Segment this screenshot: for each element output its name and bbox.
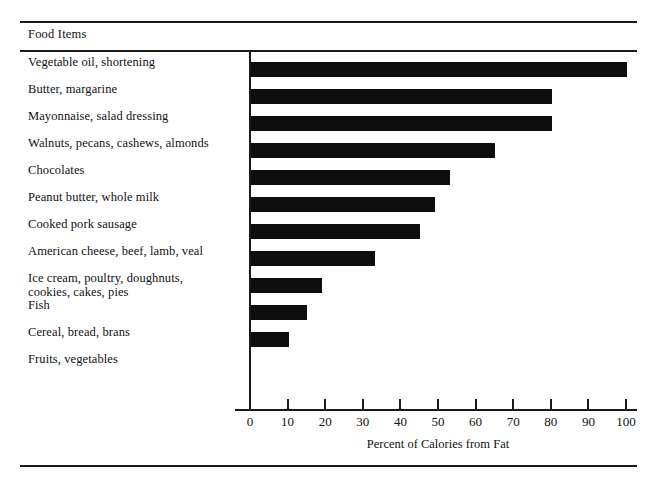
- bar-row-label: Walnuts, pecans, cashews, almonds: [28, 137, 243, 151]
- bar-row: Fruits, vegetables: [0, 353, 658, 380]
- x-tick-label-80: 80: [531, 414, 571, 430]
- bar-row: Fish: [0, 299, 658, 326]
- bar-row-label: Mayonnaise, salad dressing: [28, 110, 243, 124]
- bar-row: Ice cream, poultry, doughnuts,cookies, c…: [0, 272, 658, 299]
- x-tick-label-50: 50: [418, 414, 458, 430]
- bar-row: Butter, margarine: [0, 83, 658, 110]
- x-axis-title: Percent of Calories from Fat: [250, 437, 626, 452]
- x-tick-label-10: 10: [268, 414, 308, 430]
- x-tick-label-30: 30: [343, 414, 383, 430]
- bar: [251, 89, 552, 104]
- bar-row: American cheese, beef, lamb, veal: [0, 245, 658, 272]
- bar: [251, 62, 627, 77]
- x-tick-10: [287, 399, 289, 409]
- x-tick-100: [625, 399, 627, 409]
- bar-row-label: Chocolates: [28, 164, 243, 178]
- bar-row: Mayonnaise, salad dressing: [0, 110, 658, 137]
- bar: [251, 170, 450, 185]
- x-tick-label-70: 70: [493, 414, 533, 430]
- bar-row-label: Butter, margarine: [28, 83, 243, 97]
- bar-chart-figure: Food Items 0102030405060708090100 Vegeta…: [0, 0, 658, 487]
- caption-sliver: [20, 478, 620, 487]
- bar: [251, 197, 435, 212]
- column-header-food-items: Food Items: [28, 27, 87, 42]
- bar-row-label: Fish: [28, 299, 243, 313]
- x-tick-label-40: 40: [380, 414, 420, 430]
- bar-row-label: American cheese, beef, lamb, veal: [28, 245, 243, 259]
- x-tick-label-0: 0: [230, 414, 270, 430]
- bar-row-label: Cereal, bread, brans: [28, 326, 243, 340]
- bar: [251, 116, 552, 131]
- x-tick-90: [587, 399, 589, 409]
- bar-row-label: Cooked pork sausage: [28, 218, 243, 232]
- bar-row-label: Vegetable oil, shortening: [28, 56, 243, 70]
- x-axis-line: [235, 409, 637, 411]
- x-tick-20: [324, 399, 326, 409]
- bar: [251, 143, 495, 158]
- bar-row-label: Ice cream, poultry, doughnuts,cookies, c…: [28, 272, 243, 299]
- bar-row: Vegetable oil, shortening: [0, 56, 658, 83]
- bar-row-label: Fruits, vegetables: [28, 353, 243, 367]
- bar: [251, 251, 375, 266]
- bar: [251, 224, 420, 239]
- bar-row: Walnuts, pecans, cashews, almonds: [0, 137, 658, 164]
- x-tick-50: [437, 399, 439, 409]
- bar-row: Chocolates: [0, 164, 658, 191]
- x-tick-0: [249, 399, 251, 409]
- top-rule: [20, 21, 637, 23]
- bar-row-label: Peanut butter, whole milk: [28, 191, 243, 205]
- x-tick-30: [362, 399, 364, 409]
- x-tick-70: [512, 399, 514, 409]
- plot-area: 0102030405060708090100 Vegetable oil, sh…: [0, 52, 658, 412]
- x-tick-label-90: 90: [568, 414, 608, 430]
- bar: [251, 278, 322, 293]
- x-tick-60: [475, 399, 477, 409]
- x-tick-80: [550, 399, 552, 409]
- bar-row-label-line2: cookies, cakes, pies: [28, 286, 243, 300]
- x-tick-label-20: 20: [305, 414, 345, 430]
- x-tick-label-100: 100: [606, 414, 646, 430]
- bar: [251, 332, 289, 347]
- x-tick-40: [399, 399, 401, 409]
- bar: [251, 305, 307, 320]
- bar-row: Cooked pork sausage: [0, 218, 658, 245]
- bottom-rule: [20, 465, 637, 467]
- bar-row: Peanut butter, whole milk: [0, 191, 658, 218]
- bar-row: Cereal, bread, brans: [0, 326, 658, 353]
- x-tick-label-60: 60: [456, 414, 496, 430]
